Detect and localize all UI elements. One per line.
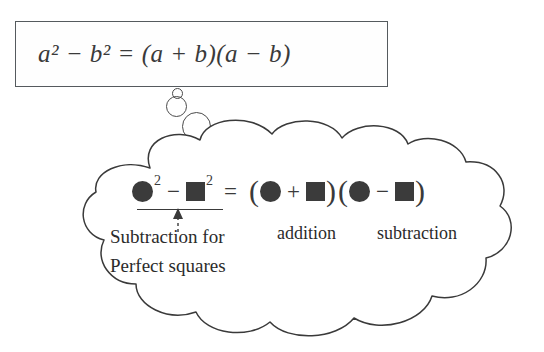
annotation-subtraction: subtraction: [377, 223, 457, 244]
minus-operator-right: −: [376, 180, 389, 203]
cloud-contents: 2 − 2 = ( + ) ( − ) Subtraction for P: [0, 0, 544, 352]
close-paren-factor1: ): [326, 176, 336, 206]
annotation-subtraction-line1: Subtraction for: [110, 226, 225, 248]
left-side-underline: [137, 209, 223, 210]
open-paren-factor2: (: [338, 176, 348, 206]
square-shape-icon: [186, 182, 205, 201]
square-shape-icon: [306, 182, 325, 201]
open-paren-factor1: (: [249, 176, 259, 206]
diagram-canvas: a² − b² = (a + b)(a − b) 2 − 2 = ( + ) (…: [0, 0, 544, 352]
annotation-addition: addition: [277, 223, 336, 244]
circle-shape-icon: [260, 181, 281, 202]
exponent-two-left-circle: 2: [154, 173, 161, 189]
close-paren-factor2: ): [415, 176, 425, 206]
annotation-subtraction-line2: Perfect squares: [110, 255, 226, 277]
equals-operator: =: [224, 180, 237, 203]
minus-operator-left: −: [167, 180, 180, 203]
square-shape-icon: [395, 182, 414, 201]
exponent-two-left-square: 2: [206, 173, 213, 189]
circle-shape-icon: [132, 181, 153, 202]
circle-shape-icon: [349, 181, 370, 202]
plus-operator: +: [287, 180, 300, 203]
symbolic-equation: 2 − 2 = ( + ) ( − ): [132, 176, 426, 206]
